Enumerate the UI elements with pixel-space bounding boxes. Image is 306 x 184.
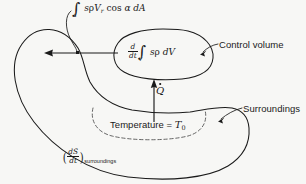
surroundings-entropy-rate: ( dS dt )surroundings (62, 148, 116, 164)
surroundings-temperature-label: Temperature = T0 (110, 120, 186, 131)
fraction-denominator-dt: dt (67, 156, 79, 165)
entropy-flux-arrowhead (44, 50, 53, 57)
integral-sign: ∫A (72, 3, 84, 15)
close-paren: ) (80, 151, 84, 165)
cv-rho: ρ (155, 47, 160, 57)
flux-cos: cos (106, 3, 121, 13)
flux-alpha: α (124, 3, 130, 13)
entropy-flux-integral: ∫AsρVr cos α dA (72, 3, 146, 15)
cv-differential: dV (163, 47, 175, 57)
heat-symbol-q: Q (156, 85, 164, 96)
integral-limit-area: A (73, 14, 76, 18)
flux-differential: dA (133, 3, 145, 13)
temperature-text: Temperature = (110, 119, 175, 130)
dS-dt-fraction: dS dt (67, 148, 79, 164)
surroundings-label: Surroundings (243, 104, 300, 114)
entropy-flux-node (76, 51, 79, 54)
surroundings-subscript: surroundings (84, 158, 116, 164)
control-volume-entropy-rate: d dt ∫Vsρ dV (128, 43, 175, 59)
control-volume-leader-arrow (203, 44, 218, 52)
fraction-denominator-dt: dt (128, 51, 138, 60)
integral-sign-volume: ∫V (138, 46, 150, 58)
overdot-icon (159, 83, 161, 85)
temperature-symbol-T: T (175, 119, 182, 130)
integral-limit-volume: V (139, 58, 142, 62)
d-dt-fraction: d dt (128, 43, 138, 59)
heat-transfer-rate-label: Q (156, 86, 164, 96)
fraction-numerator-d: d (128, 43, 138, 51)
control-volume-label: Control volume (219, 40, 284, 50)
temperature-subscript-0: 0 (182, 124, 186, 132)
surroundings-leader-arrow (221, 108, 242, 119)
q-with-overdot: Q (156, 86, 164, 96)
open-paren: ( (63, 151, 67, 165)
thermodynamics-control-volume-diagram: ∫AsρVr cos α dA d dt ∫Vsρ dV Control vol… (0, 0, 306, 184)
flux-velocity-sub: r (101, 7, 104, 14)
diagram-canvas (0, 0, 306, 184)
fraction-numerator-dS: dS (67, 148, 79, 156)
